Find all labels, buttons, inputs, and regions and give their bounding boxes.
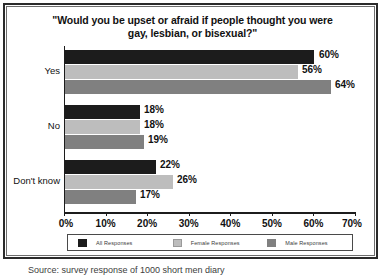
x-axis-tick: [189, 212, 190, 216]
x-axis-tick-label: 70%: [342, 218, 362, 229]
bar-female-responses-no: [65, 120, 140, 134]
chart-title: "Would you be upset or afraid if people …: [21, 14, 364, 40]
bar-all-responses-no: [65, 105, 140, 119]
chart-title-line-2: gay, lesbian, or bisexual?": [21, 27, 364, 40]
bar-value-label: 26%: [177, 174, 197, 185]
bar-all-responses-dont-know: [65, 160, 156, 174]
chart-frame: "Would you be upset or afraid if people …: [3, 3, 378, 259]
bar-row: 18%: [65, 120, 356, 134]
bar-female-responses-yes: [65, 65, 298, 79]
legend-swatch-icon: [173, 239, 182, 247]
x-axis-tick: [230, 212, 231, 216]
category-label-no: No: [5, 120, 60, 131]
category-axis-labels: Yes No Don't know: [5, 46, 60, 212]
bar-group-dont-know: 22% 26% 17%: [65, 160, 356, 205]
bar-male-responses-yes: [65, 80, 331, 94]
legend-label: Male Responses: [285, 240, 327, 246]
bar-value-label: 56%: [302, 64, 322, 75]
bar-value-label: 18%: [144, 104, 164, 115]
category-label-yes: Yes: [5, 65, 60, 76]
bar-row: 19%: [65, 135, 356, 149]
bar-value-label: 60%: [319, 49, 339, 60]
bar-row: 18%: [65, 105, 356, 119]
legend-item-female-responses: Female Responses: [163, 239, 258, 247]
bar-row: 26%: [65, 175, 356, 189]
bar-value-label: 19%: [148, 134, 168, 145]
category-label-dont-know: Don't know: [5, 175, 60, 186]
chart-caption: Source: survey response of 1000 short me…: [28, 265, 225, 275]
legend-item-all-responses: All Responses: [68, 239, 163, 247]
x-axis: 0% 10% 20% 30% 40% 50% 60% 70%: [64, 212, 355, 214]
bar-value-label: 64%: [335, 79, 355, 90]
legend-item-male-responses: Male Responses: [257, 239, 352, 247]
legend-swatch-icon: [78, 239, 87, 247]
bar-all-responses-yes: [65, 50, 314, 64]
bar-female-responses-dont-know: [65, 175, 173, 189]
x-axis-tick-label: 30%: [179, 218, 199, 229]
bar-row: 64%: [65, 80, 356, 94]
bar-value-label: 18%: [144, 119, 164, 130]
legend-label: All Responses: [96, 240, 132, 246]
x-axis-tick: [64, 212, 65, 216]
chart-legend: All Responses Female Responses Male Resp…: [67, 234, 353, 251]
x-axis-tick: [272, 212, 273, 216]
bar-group-no: 18% 18% 19%: [65, 105, 356, 150]
x-axis-tick: [147, 212, 148, 216]
bar-row: 60%: [65, 50, 356, 64]
legend-swatch-icon: [267, 239, 276, 247]
x-axis-tick-label: 60%: [303, 218, 323, 229]
bar-row: 56%: [65, 65, 356, 79]
bar-group-yes: 60% 56% 64%: [65, 50, 356, 95]
bar-value-label: 17%: [140, 189, 160, 200]
x-axis-tick-label: 10%: [96, 218, 116, 229]
x-axis-tick-label: 50%: [262, 218, 282, 229]
x-axis-tick-label: 20%: [137, 218, 157, 229]
bar-male-responses-no: [65, 135, 144, 149]
x-axis-tick-label: 0%: [59, 218, 73, 229]
bar-row: 22%: [65, 160, 356, 174]
legend-label: Female Responses: [191, 240, 240, 246]
bar-row: 17%: [65, 190, 356, 204]
chart-title-line-1: "Would you be upset or afraid if people …: [21, 14, 364, 27]
x-axis-tick: [106, 212, 107, 216]
plot-area: 60% 56% 64% 18% 18% 19%: [64, 46, 356, 212]
x-axis-tick: [355, 212, 356, 216]
x-axis-tick: [313, 212, 314, 216]
x-axis-tick-label: 40%: [220, 218, 240, 229]
bar-male-responses-dont-know: [65, 190, 136, 204]
bar-value-label: 22%: [160, 159, 180, 170]
